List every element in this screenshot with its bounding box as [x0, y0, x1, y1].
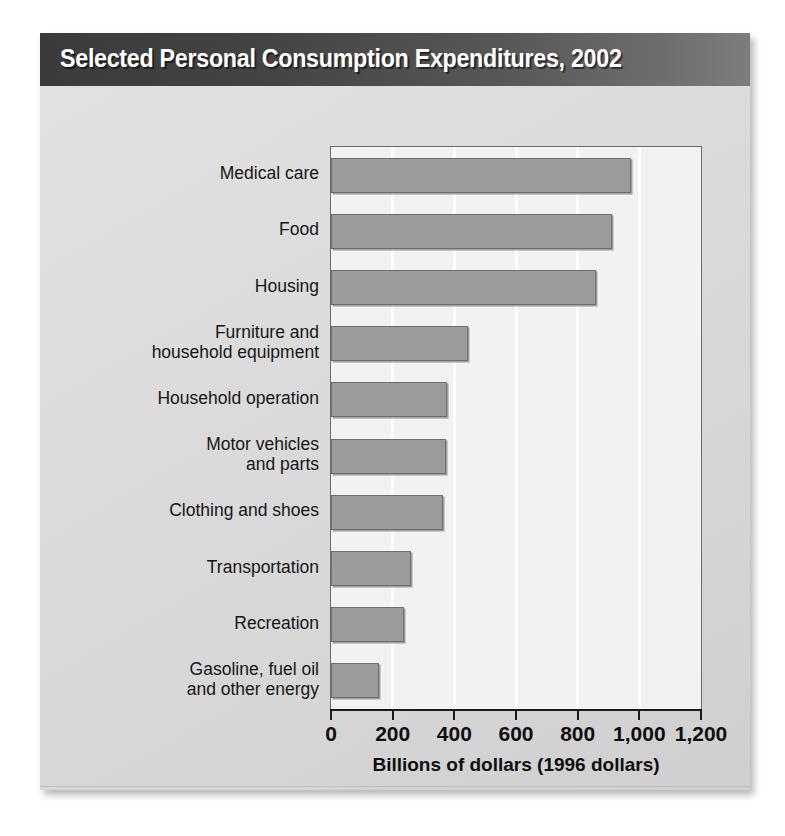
category-label: Motor vehicles and parts [50, 427, 325, 483]
x-axis-tick [453, 711, 455, 720]
page-title: Selected Personal Consumption Expenditur… [60, 44, 622, 73]
bar [331, 551, 411, 586]
chart-card: Selected Personal Consumption Expenditur… [40, 33, 750, 790]
x-axis-tick-label: 1,000 [613, 722, 666, 746]
x-axis-tick [515, 711, 517, 720]
category-axis-labels: Medical careFoodHousingFurniture and hou… [50, 146, 325, 708]
bar [331, 382, 447, 417]
bar [331, 439, 446, 474]
category-label: Recreation [50, 596, 325, 652]
bar-row [331, 203, 701, 259]
x-axis-tick-label: 800 [560, 722, 595, 746]
bar-row [331, 372, 701, 428]
x-axis-tick [577, 711, 579, 720]
bar-row [331, 316, 701, 372]
category-label: Gasoline, fuel oil and other energy [50, 652, 325, 708]
bar [331, 495, 443, 530]
x-axis-tick [330, 711, 332, 720]
bar-row [331, 147, 701, 203]
x-axis-tick-label: 0 [325, 722, 337, 746]
x-axis-tick-label: 600 [498, 722, 533, 746]
bar-row [331, 653, 701, 709]
x-axis-tick [700, 711, 702, 720]
bar-row [331, 540, 701, 596]
bar-row [331, 484, 701, 540]
chart-header-bar: Selected Personal Consumption Expenditur… [40, 33, 750, 86]
category-label: Housing [50, 258, 325, 314]
x-axis-tick [392, 711, 394, 720]
x-axis-tick-label: 1,200 [675, 722, 728, 746]
bar-row [331, 597, 701, 653]
bar [331, 214, 612, 249]
category-label: Furniture and household equipment [50, 315, 325, 371]
category-label: Household operation [50, 371, 325, 427]
bar [331, 270, 596, 305]
bar [331, 158, 631, 193]
bar [331, 326, 468, 361]
category-label: Clothing and shoes [50, 483, 325, 539]
x-axis-tick-label: 400 [437, 722, 472, 746]
plot-wrapper: Medical careFoodHousingFurniture and hou… [40, 86, 750, 790]
bar [331, 663, 379, 698]
bar-row [331, 428, 701, 484]
bar-row [331, 259, 701, 315]
x-axis-tick [638, 711, 640, 720]
category-label: Transportation [50, 539, 325, 595]
x-axis-title: Billions of dollars (1996 dollars) [330, 754, 702, 776]
category-label: Food [50, 202, 325, 258]
footer-divider [40, 786, 750, 787]
x-axis-tick-label: 200 [375, 722, 410, 746]
plot-area [330, 146, 702, 710]
bar-series [331, 147, 701, 709]
bar [331, 607, 404, 642]
category-label: Medical care [50, 146, 325, 202]
